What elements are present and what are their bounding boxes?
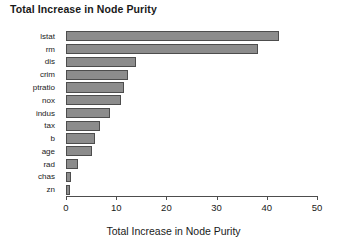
x-tick-10	[116, 196, 117, 200]
bar-indus	[66, 108, 110, 118]
bar-row	[66, 159, 317, 169]
x-tick-label-20: 20	[161, 202, 172, 213]
x-tick-label-50: 50	[312, 202, 323, 213]
bar-ptratio	[66, 82, 124, 92]
bar-nox	[66, 95, 121, 105]
bar-row	[66, 133, 317, 143]
y-axis-category-labels: lstatrmdiscrimptrationoxindustaxbageradc…	[0, 30, 62, 196]
node-purity-bar-chart: Total Increase in Node Purity lstatrmdis…	[0, 0, 347, 249]
y-axis-label-crim: crim	[40, 70, 55, 79]
bar-row	[66, 82, 317, 92]
bar-tax	[66, 121, 100, 131]
bar-row	[66, 57, 317, 67]
x-tick-label-40: 40	[262, 202, 273, 213]
x-tick-0	[66, 196, 67, 200]
y-axis-label-dis: dis	[45, 57, 55, 66]
bar-row	[66, 95, 317, 105]
bar-zn	[66, 185, 70, 195]
bar-row	[66, 108, 317, 118]
bar-row	[66, 172, 317, 182]
bar-rm	[66, 44, 258, 54]
y-axis-label-b: b	[51, 134, 55, 143]
plot-area	[66, 30, 317, 196]
bar-row	[66, 185, 317, 195]
x-tick-label-30: 30	[211, 202, 222, 213]
x-tick-40	[267, 196, 268, 200]
bar-row	[66, 44, 317, 54]
bar-row	[66, 70, 317, 80]
bar-row	[66, 31, 317, 41]
x-tick-50	[317, 196, 318, 200]
y-axis-label-nox: nox	[42, 96, 55, 105]
x-tick-20	[166, 196, 167, 200]
y-axis-label-age: age	[42, 147, 55, 156]
bar-dis	[66, 57, 136, 67]
x-tick-30	[217, 196, 218, 200]
bar-crim	[66, 70, 128, 80]
y-axis-label-zn: zn	[47, 185, 55, 194]
bars-layer	[66, 30, 317, 196]
x-tick-label-10: 10	[111, 202, 122, 213]
bar-row	[66, 121, 317, 131]
chart-title: Total Increase in Node Purity	[10, 3, 157, 15]
y-axis-label-ptratio: ptratio	[33, 83, 55, 92]
bar-chas	[66, 172, 71, 182]
y-axis-label-rad: rad	[43, 160, 55, 169]
bar-row	[66, 146, 317, 156]
y-axis-label-indus: indus	[36, 109, 55, 118]
bar-lstat	[66, 31, 279, 41]
y-axis-label-rm: rm	[46, 45, 55, 54]
x-axis-title: Total Increase in Node Purity	[0, 225, 347, 237]
y-axis-label-lstat: lstat	[40, 32, 55, 41]
bar-b	[66, 133, 95, 143]
x-tick-label-0: 0	[63, 202, 68, 213]
bar-age	[66, 146, 92, 156]
bar-rad	[66, 159, 78, 169]
y-axis-label-chas: chas	[38, 172, 55, 181]
y-axis-label-tax: tax	[44, 121, 55, 130]
x-axis-line	[66, 196, 317, 197]
